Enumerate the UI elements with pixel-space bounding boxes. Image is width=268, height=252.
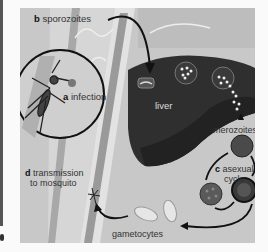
lifecycle-diagram: b sporozoites a infection liver merozoit… — [20, 8, 255, 243]
label-sporozoites: b sporozoites — [34, 14, 91, 24]
page-edge-line — [0, 0, 3, 226]
label-asexual-cycle: c asexual cycle — [215, 164, 254, 184]
label-transmission: d transmission to mosquito — [25, 168, 84, 188]
label-gametocytes: gametocytes — [112, 229, 163, 239]
hepatocyte-2 — [175, 62, 197, 84]
gametocyte-2 — [161, 199, 178, 223]
label-liver: liver — [155, 101, 172, 111]
arrow-to-gametocytes — [185, 204, 252, 227]
page-edge-mark — [0, 234, 4, 241]
background-tissue — [138, 8, 255, 48]
gametocyte-1 — [133, 204, 160, 223]
label-infection: a infection — [63, 92, 106, 102]
schizont-cell — [200, 183, 222, 205]
bite-site — [68, 79, 76, 87]
label-merozoites: merozoites — [213, 125, 255, 135]
red-blood-cell-top — [231, 135, 253, 157]
